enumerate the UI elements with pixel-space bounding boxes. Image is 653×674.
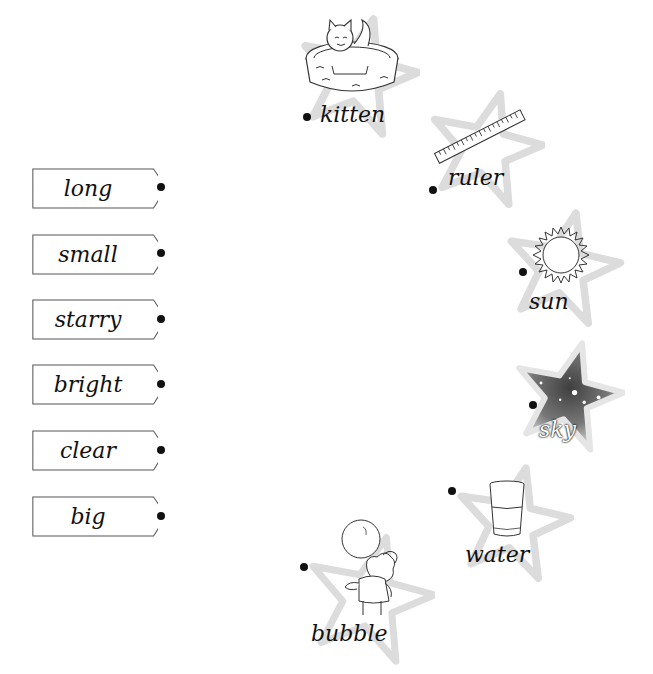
noun-label: kitten: [320, 102, 385, 127]
adjective-word: starry: [32, 299, 144, 340]
connector-dot[interactable]: [519, 268, 527, 276]
adjective-tag-small[interactable]: small: [32, 234, 158, 275]
connector-dot[interactable]: [157, 446, 165, 454]
boy-blowing-bubble-icon: [333, 517, 413, 617]
noun-label: water: [465, 542, 529, 567]
noun-star-ruler: ruler: [420, 85, 545, 210]
connector-dot[interactable]: [448, 487, 456, 495]
noun-star-water: water: [445, 460, 575, 585]
ruler-icon: [430, 107, 530, 167]
noun-label: bubble: [311, 621, 387, 646]
noun-star-sun: sun: [495, 205, 625, 330]
adjective-tag-big[interactable]: big: [32, 496, 158, 537]
noun-star-sky: sky: [505, 335, 625, 455]
noun-label: sky: [539, 417, 576, 442]
adjective-word: bright: [32, 364, 144, 405]
adjective-tag-bright[interactable]: bright: [32, 364, 158, 405]
noun-star-kitten: kitten: [290, 10, 420, 140]
connector-dot[interactable]: [157, 249, 165, 257]
adjective-word: small: [32, 234, 144, 275]
connector-dot[interactable]: [429, 186, 437, 194]
connector-dot[interactable]: [300, 563, 308, 571]
noun-label: sun: [529, 289, 569, 314]
adjective-word: big: [32, 496, 144, 537]
connector-dot[interactable]: [303, 113, 311, 121]
connector-dot[interactable]: [157, 512, 165, 520]
connector-dot[interactable]: [157, 380, 165, 388]
adjective-tag-starry[interactable]: starry: [32, 299, 158, 340]
kitten-in-basket-icon: [302, 16, 402, 101]
noun-label: ruler: [448, 165, 503, 190]
sun-icon: [529, 223, 593, 287]
glass-of-water-icon: [487, 480, 527, 540]
connector-dot[interactable]: [157, 183, 165, 191]
adjective-word: long: [32, 168, 144, 209]
connector-dot[interactable]: [529, 401, 537, 409]
adjective-tag-long[interactable]: long: [32, 168, 158, 209]
noun-star-bubble: bubble: [295, 525, 435, 670]
connector-dot[interactable]: [157, 315, 165, 323]
adjective-word: clear: [32, 430, 144, 471]
adjective-tag-clear[interactable]: clear: [32, 430, 158, 471]
